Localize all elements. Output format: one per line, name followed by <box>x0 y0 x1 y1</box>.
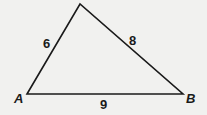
side-label-ab: 9 <box>100 97 107 112</box>
triangle-diagram: 6 8 9 A B <box>0 0 207 115</box>
vertex-label-b: B <box>186 91 195 106</box>
vertex-label-a: A <box>13 91 23 106</box>
triangle <box>27 4 183 94</box>
side-label-ac: 6 <box>43 36 50 51</box>
side-label-cb: 8 <box>129 33 136 48</box>
